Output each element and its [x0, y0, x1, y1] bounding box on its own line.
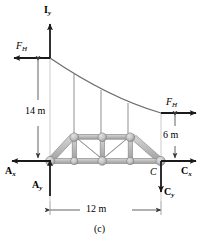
force-label-Ay: Ay	[32, 180, 42, 190]
figure-container: Iy FH FH Ax Ay Cx Cy C 14 m 6 m 12 m (c)	[0, 0, 205, 242]
point-label-C: C	[150, 167, 157, 177]
suspension-cable	[50, 58, 161, 113]
force-label-Iy: Iy	[44, 5, 51, 15]
dimension-label-14m: 14 m	[25, 106, 45, 116]
force-label-FH-left: FH	[16, 41, 27, 51]
dimension-label-12m: 12 m	[86, 204, 106, 214]
truss-structure	[46, 133, 166, 166]
truss-joint-top-3	[126, 133, 135, 142]
force-label-Cx: Cx	[181, 166, 192, 176]
force-label-Ax: Ax	[5, 166, 16, 176]
truss-joint-bot-2	[98, 157, 107, 166]
dimension-label-6m: 6 m	[163, 130, 178, 140]
force-label-Cy: Cy	[164, 187, 174, 197]
truss-joint-top-2	[98, 133, 107, 142]
truss-joint-top-1	[70, 133, 79, 142]
force-label-FH-right: FH	[166, 97, 177, 107]
truss-joint-bot-1	[71, 157, 78, 164]
truss-joint-bot-3	[127, 157, 134, 164]
figure-caption: (c)	[94, 224, 105, 234]
hanger-group	[74, 74, 128, 139]
